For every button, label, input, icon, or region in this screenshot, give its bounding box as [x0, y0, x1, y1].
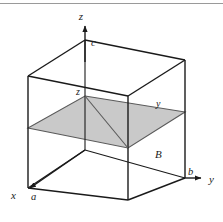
z-axis-label: z [78, 10, 84, 22]
vertex-a-label: a [31, 191, 36, 202]
y-axis-label: y [208, 173, 214, 185]
box-top-face [28, 40, 185, 96]
vertex-c-label: c [91, 37, 96, 48]
x-axis-label: x [10, 189, 16, 201]
x-axis-line [30, 150, 85, 188]
plane-z-label: z [75, 86, 80, 97]
vertex-b-label: b [188, 166, 193, 177]
box-bottom-front-edges [28, 178, 185, 200]
plane-y-label: y [155, 98, 161, 109]
figure-container: z c z y B b y x a [0, 0, 223, 222]
region-b-label: B [155, 148, 162, 160]
box-diagram: z c z y B b y x a [0, 0, 223, 222]
